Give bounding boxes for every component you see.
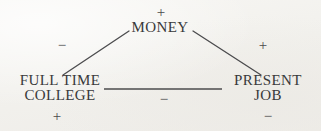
- polarity-sign-college-job-edge: −: [156, 92, 172, 107]
- node-job-label-line2: JOB: [218, 88, 318, 103]
- edge-money-job: [193, 31, 261, 75]
- causal-diagram-canvas: + MONEY − + FULL TIME COLLEGE PRESENT JO…: [0, 0, 321, 131]
- edge-college-money: [63, 31, 129, 75]
- polarity-sign-money-job-edge: +: [255, 38, 271, 53]
- node-college-label-line2: COLLEGE: [2, 88, 118, 103]
- node-present-job: PRESENT JOB: [218, 73, 318, 104]
- polarity-sign-money-top: +: [153, 5, 169, 20]
- polarity-sign-job-bottom: −: [260, 109, 276, 124]
- node-money: MONEY: [110, 20, 210, 35]
- node-college-label-line1: FULL TIME: [2, 73, 118, 88]
- polarity-sign-college-bottom: +: [49, 109, 65, 124]
- node-job-label-line1: PRESENT: [218, 73, 318, 88]
- node-full-time-college: FULL TIME COLLEGE: [2, 73, 118, 104]
- node-money-label: MONEY: [110, 20, 210, 35]
- polarity-sign-college-money-edge: −: [54, 38, 70, 53]
